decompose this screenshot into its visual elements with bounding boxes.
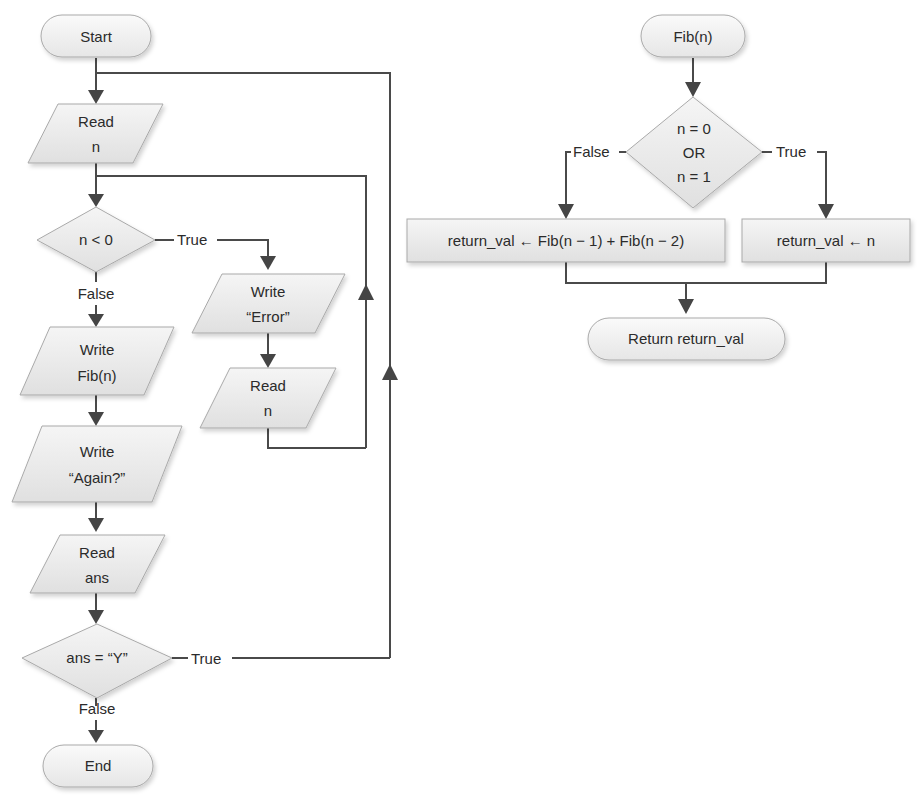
recursive-step-label: return_val ← Fib(n − 1) + Fib(n − 2) (448, 232, 684, 249)
negative-check-label: n < 0 (79, 231, 113, 248)
reread-n-line2: n (264, 402, 272, 419)
write-again-output (12, 426, 182, 502)
read-ans-line1: Read (79, 544, 115, 561)
write-fib-line1: Write (80, 341, 115, 358)
return-label: Return return_val (628, 330, 744, 347)
read-ans-line2: ans (85, 569, 109, 586)
fib-start-label: Fib(n) (673, 28, 712, 45)
read-n-line2: n (92, 138, 100, 155)
write-again-line2: “Again?” (69, 469, 126, 486)
write-fib-output (20, 327, 174, 395)
base-step-label: return_val ← n (777, 232, 875, 249)
again-false-label: False (79, 700, 116, 717)
again-check-label: ans = “Y” (66, 649, 127, 666)
again-true-label: True (191, 650, 221, 667)
base-case-line2: OR (683, 144, 706, 161)
negative-true-label: True (177, 231, 207, 248)
start-label: Start (80, 28, 113, 45)
write-again-line1: Write (80, 443, 115, 460)
write-error-line1: Write (251, 283, 286, 300)
base-false-label: False (573, 143, 610, 160)
write-fib-line2: Fib(n) (77, 367, 116, 384)
write-error-line2: “Error” (246, 308, 289, 325)
base-case-line1: n = 0 (677, 120, 711, 137)
base-true-label: True (776, 143, 806, 160)
end-label: End (85, 757, 112, 774)
flowchart-canvas: Start Read n n < 0 True False Write “Err… (0, 0, 924, 807)
negative-false-label: False (78, 285, 115, 302)
reread-n-line1: Read (250, 377, 286, 394)
read-n-line1: Read (78, 113, 114, 130)
base-case-line3: n = 1 (677, 168, 711, 185)
